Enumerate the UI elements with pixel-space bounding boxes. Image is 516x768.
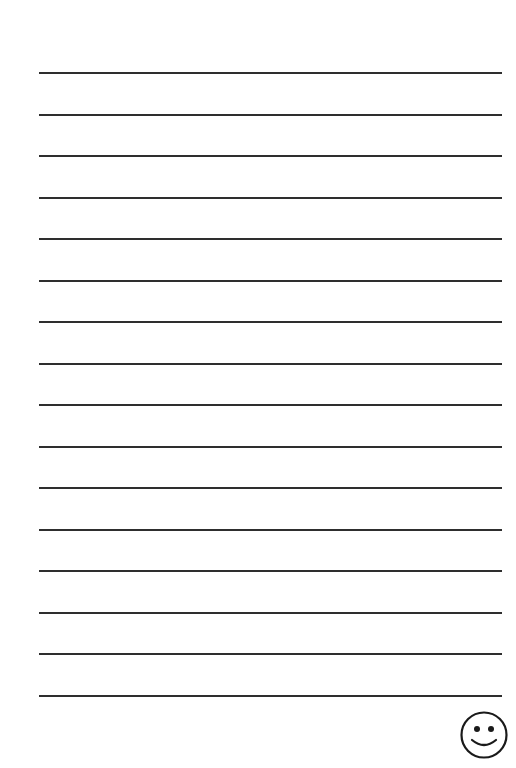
ruled-line [39,487,502,489]
ruled-line [39,612,502,614]
ruled-line [39,321,502,323]
ruled-line [39,280,502,282]
ruled-line [39,529,502,531]
smiley-face-icon [459,710,509,760]
ruled-line [39,446,502,448]
ruled-line [39,363,502,365]
ruled-line [39,238,502,240]
ruled-line [39,653,502,655]
ruled-line [39,155,502,157]
ruled-line [39,197,502,199]
ruled-line [39,404,502,406]
ruled-line [39,570,502,572]
ruled-line [39,695,502,697]
ruled-line [39,114,502,116]
ruled-line [39,72,502,74]
